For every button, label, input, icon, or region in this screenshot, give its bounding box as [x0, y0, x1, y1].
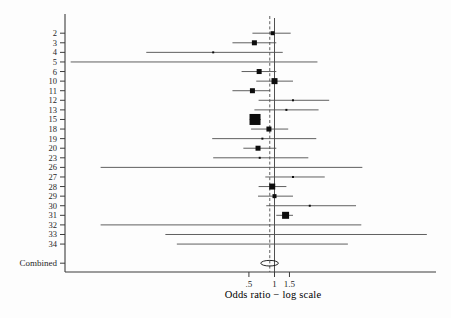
y-axis-label: 29 [49, 191, 58, 201]
y-axis-label: 11 [49, 86, 57, 96]
study-point-marker [273, 194, 277, 198]
y-axis-label: 19 [49, 134, 58, 144]
forest-plot-figure: 2345610111213151819202326272829303132333… [0, 0, 451, 318]
study-point-marker [292, 176, 294, 178]
y-axis-label: 10 [49, 76, 58, 86]
study-point-marker [285, 109, 287, 111]
y-axis-label: 31 [49, 210, 58, 220]
x-axis-title: Odds ratio − log scale [157, 289, 389, 300]
y-axis-label: 12 [49, 95, 58, 105]
study-point-marker [309, 205, 311, 207]
y-axis-label: 34 [49, 239, 58, 249]
y-axis-label: 23 [49, 153, 58, 163]
y-axis-label: 28 [49, 182, 58, 192]
y-axis-label: 13 [49, 105, 58, 115]
combined-label: Combined [20, 258, 58, 268]
study-point-marker [261, 138, 263, 140]
study-point-marker [266, 127, 271, 132]
y-axis-label: 20 [49, 143, 58, 153]
y-axis-label: 4 [53, 47, 58, 57]
y-axis-label: 18 [49, 124, 58, 134]
study-point-marker [212, 51, 214, 53]
x-tick-label: 1 [272, 279, 277, 289]
y-axis-label: 32 [49, 220, 58, 230]
study-point-marker [259, 157, 261, 159]
study-point-marker [256, 146, 261, 151]
study-point-marker [257, 69, 262, 74]
study-point-marker [269, 184, 275, 190]
y-axis-label: 33 [49, 229, 58, 239]
y-axis-label: 6 [53, 67, 57, 77]
study-point-marker [250, 114, 261, 125]
study-point-marker [252, 40, 257, 45]
y-axis-label: 3 [53, 38, 57, 48]
study-point-marker [250, 88, 255, 93]
study-point-marker [271, 31, 275, 35]
y-axis-label: 15 [49, 114, 58, 124]
study-point-marker [272, 78, 278, 84]
y-axis-label: 5 [53, 57, 57, 67]
y-axis-label: 27 [49, 172, 58, 182]
x-tick-label: .5 [246, 279, 253, 289]
y-axis-label: 30 [49, 201, 58, 211]
x-tick-label: 1.5 [284, 279, 296, 289]
y-axis-label: 2 [53, 28, 57, 38]
study-point-marker [282, 212, 289, 219]
study-point-marker [292, 99, 294, 101]
forest-plot-canvas: 2345610111213151819202326272829303132333… [0, 0, 451, 318]
y-axis-label: 26 [49, 162, 58, 172]
